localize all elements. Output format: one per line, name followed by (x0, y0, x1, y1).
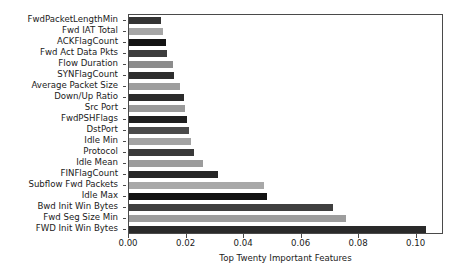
y-axis-tick-label: Subflow Fwd Packets (28, 179, 118, 190)
bar (129, 204, 333, 210)
y-axis-tick-mark (123, 86, 127, 87)
y-axis-tick-label: ACKFlagCount (57, 36, 118, 47)
y-axis-tick-mark (123, 207, 127, 208)
y-axis-tick-mark (123, 97, 127, 98)
bar (129, 17, 161, 23)
y-axis-tick-label: SYNFlagCount (57, 69, 118, 80)
bar (129, 83, 180, 89)
bar-row (129, 204, 444, 210)
y-axis-tick-mark (123, 108, 127, 109)
y-axis-tick-label: Idle Min (84, 135, 118, 146)
bar-row (129, 50, 444, 56)
bar-row (129, 94, 444, 100)
bar (129, 105, 185, 111)
y-axis-tick-label: Fwd Act Data Pkts (40, 47, 118, 58)
x-axis-tick-label: 0.10 (406, 238, 425, 248)
y-axis-tick-label: Down/Up Ratio (54, 91, 118, 102)
y-axis-tick-mark (123, 119, 127, 120)
bar-row (129, 182, 444, 188)
bar (129, 127, 189, 133)
bar-row (129, 215, 444, 221)
bar (129, 138, 191, 144)
y-axis-tick-mark (123, 141, 127, 142)
y-axis-tick-label: FwdPacketLengthMin (28, 14, 118, 25)
y-axis-tick-label: Average Packet Size (31, 80, 118, 91)
y-axis-tick-label: Src Port (85, 102, 118, 113)
y-axis-tick-mark (123, 20, 127, 21)
y-axis-tick-mark (123, 53, 127, 54)
bar-series (129, 15, 442, 233)
bar (129, 94, 184, 100)
y-axis-tick-mark (123, 152, 127, 153)
bar (129, 149, 194, 155)
bar-row (129, 226, 444, 232)
x-axis-tick-mark (128, 234, 129, 238)
bar (129, 39, 166, 45)
bar-row (129, 127, 444, 133)
x-axis-tick-label: 0.00 (118, 238, 137, 248)
y-axis-tick-mark (123, 174, 127, 175)
y-axis-tick-label: Idle Max (82, 190, 118, 201)
bar-row (129, 28, 444, 34)
y-axis-tick-mark (123, 185, 127, 186)
bar-row (129, 138, 444, 144)
y-axis-tick-mark (123, 31, 127, 32)
y-axis-tick-mark (123, 218, 127, 219)
x-axis-tick-mark (243, 234, 244, 238)
bar-row (129, 171, 444, 177)
bar-row (129, 149, 444, 155)
bar (129, 182, 264, 188)
bar (129, 28, 163, 34)
bar (129, 160, 203, 166)
bar-row (129, 83, 444, 89)
y-axis-tick-label: Bwd Init Win Bytes (37, 201, 118, 212)
y-axis-tick-mark (123, 229, 127, 230)
y-axis-tick-label: Fwd IAT Total (62, 25, 118, 36)
y-axis-tick-mark (123, 163, 127, 164)
bar-row (129, 105, 444, 111)
plot-area (128, 14, 443, 234)
x-axis-tick-mark (416, 234, 417, 238)
y-axis-tick-mark (123, 75, 127, 76)
bar (129, 61, 173, 67)
y-axis-tick-label: FWD Init Win Bytes (36, 223, 118, 234)
y-axis-tick-labels: FwdPacketLengthMinFwd IAT TotalACKFlagCo… (0, 14, 126, 234)
x-axis-tick-mark (358, 234, 359, 238)
y-axis-tick-mark (123, 196, 127, 197)
x-axis-tick-label: 0.02 (176, 238, 195, 248)
bar (129, 215, 346, 221)
y-axis-tick-mark (123, 130, 127, 131)
x-axis-tick-label: 0.04 (233, 238, 252, 248)
bar-row (129, 39, 444, 45)
bar (129, 193, 267, 199)
x-axis-tick-mark (186, 234, 187, 238)
bar (129, 171, 218, 177)
figure: FwdPacketLengthMinFwd IAT TotalACKFlagCo… (0, 0, 463, 275)
y-axis-tick-mark (123, 42, 127, 43)
bar (129, 72, 174, 78)
x-axis-tick-mark (301, 234, 302, 238)
y-axis-tick-label: Idle Mean (76, 157, 118, 168)
bar-row (129, 116, 444, 122)
y-axis-tick-label: Flow Duration (58, 58, 118, 69)
x-axis-tick-label: 0.08 (349, 238, 368, 248)
bar (129, 116, 187, 122)
bar (129, 226, 426, 232)
x-axis-tick-label: 0.06 (291, 238, 310, 248)
bar-row (129, 193, 444, 199)
y-axis-tick-label: FINFlagCount (61, 168, 118, 179)
y-axis-tick-label: FwdPSHFlags (61, 113, 118, 124)
y-axis-tick-label: DstPort (86, 124, 118, 135)
y-axis-tick-mark (123, 64, 127, 65)
x-axis-title: Top Twenty Important Features (128, 253, 443, 263)
bar-row (129, 17, 444, 23)
bar-row (129, 72, 444, 78)
bar-row (129, 61, 444, 67)
y-axis-tick-label: Protocol (83, 146, 118, 157)
y-axis-tick-label: Fwd Seg Size Min (43, 212, 118, 223)
bar-row (129, 160, 444, 166)
bar (129, 50, 167, 56)
